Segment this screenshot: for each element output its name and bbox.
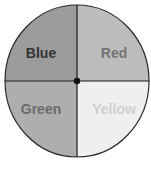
center-pivot-dot bbox=[74, 78, 80, 84]
spinner-wheel: Blue Red Green Yellow bbox=[4, 4, 150, 158]
label-red: Red bbox=[101, 45, 127, 61]
caption bbox=[0, 166, 151, 175]
label-green: Green bbox=[21, 101, 61, 117]
label-blue: Blue bbox=[26, 45, 57, 61]
label-yellow: Yellow bbox=[92, 101, 136, 117]
